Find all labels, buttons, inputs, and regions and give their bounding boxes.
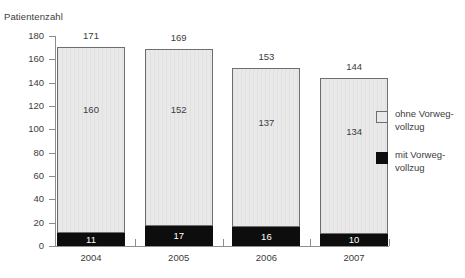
legend-swatch-dark [376, 152, 388, 164]
bar-total-label: 169 [145, 32, 213, 43]
y-axis-tick-label: 80 [0, 147, 44, 158]
x-axis-category-label: 2007 [320, 252, 388, 263]
bar-segment-label-mit: 11 [57, 234, 125, 245]
x-axis-tick [223, 239, 224, 246]
legend-label: mit Vorweg-vollzug [395, 149, 465, 174]
chart-axis-title: Patientenzahl [4, 11, 63, 22]
legend-label-line2: vollzug [395, 162, 465, 175]
bar-segment-label-ohne: 160 [57, 104, 125, 115]
bar-segment-ohne-vorwegvollzug[interactable] [145, 49, 213, 226]
bar-group[interactable]: 17116011 [57, 0, 125, 278]
y-axis-tick-label: 140 [0, 77, 44, 88]
bar-segment-ohne-vorwegvollzug[interactable] [57, 47, 125, 234]
bar-total-label: 153 [232, 51, 300, 62]
bar-chart: Patientenzahl 180160140120100806040200 1… [0, 0, 465, 278]
y-axis-tick-label: 100 [0, 123, 44, 134]
x-axis-tick [55, 239, 56, 246]
bar-segment-label-ohne: 137 [232, 117, 300, 128]
legend-label: ohne Vorweg-vollzug [395, 108, 465, 133]
y-axis-tick [49, 83, 56, 84]
bar-total-label: 144 [320, 61, 388, 72]
bar-segment-label-ohne: 152 [145, 104, 213, 115]
y-axis-tick [49, 36, 56, 37]
x-axis-line [55, 246, 389, 247]
y-axis-tick [49, 199, 56, 200]
bar-segment-label-ohne: 134 [320, 126, 388, 137]
y-axis-tick-label: 40 [0, 193, 44, 204]
y-axis-tick [49, 59, 56, 60]
legend-label-line1: mit Vorweg- [395, 149, 445, 160]
legend-label-line2: vollzug [395, 121, 465, 134]
y-axis-line [55, 36, 56, 246]
y-axis-tick-label: 20 [0, 217, 44, 228]
bar-group[interactable]: 14413410 [320, 0, 388, 278]
bar-segment-label-mit: 16 [232, 231, 300, 242]
bar-segment-label-mit: 10 [320, 234, 388, 245]
bar-group[interactable]: 15313716 [232, 0, 300, 278]
x-axis-tick [389, 239, 390, 246]
x-axis-tick [135, 239, 136, 246]
bar-total-label: 171 [57, 30, 125, 41]
y-axis-tick [49, 129, 56, 130]
y-axis-tick-label: 180 [0, 30, 44, 41]
x-axis-category-label: 2004 [57, 252, 125, 263]
y-axis-tick-label: 160 [0, 53, 44, 64]
legend-swatch-light [376, 111, 388, 123]
legend-label-line1: ohne Vorweg- [395, 108, 454, 119]
y-axis-tick [49, 106, 56, 107]
bar-group[interactable]: 16915217 [145, 0, 213, 278]
y-axis-tick-label: 60 [0, 170, 44, 181]
x-axis-tick [310, 239, 311, 246]
y-axis-tick [49, 176, 56, 177]
y-axis-tick-label: 0 [0, 240, 44, 251]
bar-segment-ohne-vorwegvollzug[interactable] [232, 68, 300, 228]
bar-segment-label-mit: 17 [145, 230, 213, 241]
y-axis-tick [49, 223, 56, 224]
y-axis-tick-label: 120 [0, 100, 44, 111]
x-axis-category-label: 2006 [232, 252, 300, 263]
x-axis-category-label: 2005 [145, 252, 213, 263]
y-axis-tick [49, 153, 56, 154]
